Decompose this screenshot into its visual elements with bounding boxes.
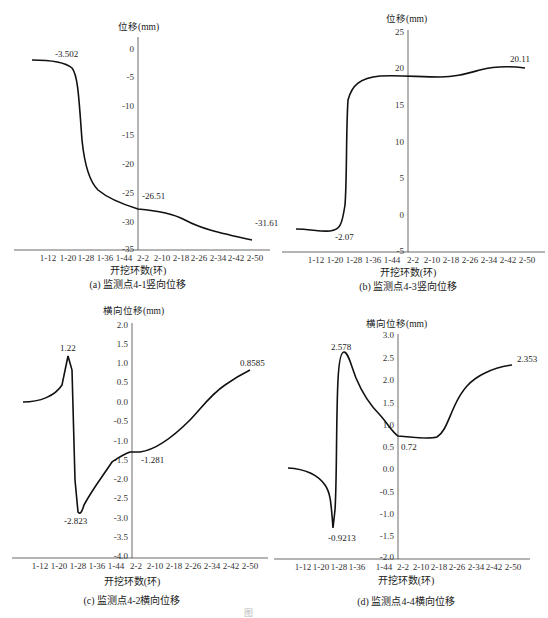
svg-text:2-42: 2-42 (486, 562, 503, 572)
svg-text:1-20: 1-20 (327, 255, 344, 265)
svg-text:-10: -10 (122, 101, 134, 111)
chart-c-annotation: 0.8585 (240, 358, 265, 368)
svg-text:2-10: 2-10 (413, 562, 430, 572)
svg-text:2-34: 2-34 (204, 561, 221, 571)
svg-text:2-2: 2-2 (130, 561, 142, 571)
chart-d-series-line (288, 352, 512, 528)
svg-text:1-28: 1-28 (331, 562, 348, 572)
chart-d-annotation: -0.9213 (328, 533, 356, 543)
chart-c-annotation: -2.823 (64, 516, 88, 526)
svg-text:-1.0: -1.0 (380, 509, 395, 519)
chart-b-annotation: 20.11 (510, 54, 530, 64)
svg-text:2-42: 2-42 (223, 561, 240, 571)
svg-text:-3.0: -3.0 (114, 513, 129, 523)
svg-text:5: 5 (400, 173, 405, 183)
svg-text:2.0: 2.0 (117, 320, 129, 330)
svg-text:2.5: 2.5 (383, 353, 395, 363)
svg-text:-1.0: -1.0 (114, 436, 129, 446)
chart-a-xticks: 1-12 1-20 1-28 1-36 1-44 2-2 2-10 2-18 2… (40, 253, 264, 263)
svg-text:1-12: 1-12 (32, 561, 49, 571)
chart-b-ylabel: 位移(mm) (386, 13, 427, 25)
chart-b-series-line (296, 67, 525, 232)
svg-text:-15: -15 (122, 130, 134, 140)
svg-text:-3.5: -3.5 (114, 532, 129, 542)
chart-a-annotation: -31.61 (255, 218, 278, 228)
svg-text:25: 25 (395, 27, 405, 37)
svg-text:2-42: 2-42 (500, 255, 517, 265)
chart-d-annotation: 2.578 (331, 342, 352, 352)
svg-text:-0.5: -0.5 (114, 416, 129, 426)
svg-text:1-12: 1-12 (308, 255, 325, 265)
chart-c-annotation: 1.22 (60, 343, 76, 353)
svg-text:-25: -25 (122, 188, 134, 198)
svg-text:2-2: 2-2 (137, 253, 149, 263)
svg-text:0.5: 0.5 (117, 377, 129, 387)
chart-b-caption: (b) 监测点4-3竖向位移 (359, 280, 457, 293)
svg-text:1-36: 1-36 (349, 562, 366, 572)
chart-a-annotation: -26.51 (142, 191, 165, 201)
svg-text:20: 20 (395, 63, 405, 73)
svg-text:1-36: 1-36 (97, 253, 114, 263)
chart-c-xticks: 1-12 1-20 1-28 1-36 1-44 2-2 2-10 2-18 2… (32, 561, 259, 571)
svg-text:1-44: 1-44 (116, 253, 133, 263)
svg-text:0.0: 0.0 (383, 464, 395, 474)
svg-text:2-26: 2-26 (191, 253, 208, 263)
svg-text:0.0: 0.0 (117, 397, 129, 407)
svg-text:3.0: 3.0 (383, 330, 395, 340)
svg-text:1-20: 1-20 (51, 561, 68, 571)
svg-text:2-18: 2-18 (173, 253, 190, 263)
chart-c-yticks: 2.0 1.5 1.0 0.5 0.0 -0.5 -1.0 -1.5 -2.0 … (114, 320, 129, 561)
chart-b-xlabel: 开挖环数(环) (380, 266, 437, 279)
svg-text:1.5: 1.5 (117, 339, 129, 349)
svg-text:-2.5: -2.5 (114, 493, 129, 503)
svg-text:2-26: 2-26 (462, 255, 479, 265)
svg-text:2-26: 2-26 (185, 561, 202, 571)
svg-text:-30: -30 (122, 217, 134, 227)
svg-text:-0.5: -0.5 (380, 487, 395, 497)
svg-text:15: 15 (395, 100, 405, 110)
chart-b: 位移(mm) 25 20 15 10 5 0 -5 1-12 1-20 1-28… (282, 13, 545, 293)
svg-text:1-20: 1-20 (60, 253, 77, 263)
svg-text:2-50: 2-50 (247, 253, 264, 263)
chart-a-series-line (32, 60, 252, 240)
svg-text:1-36: 1-36 (89, 561, 106, 571)
chart-d-xticks: 1-12 1-20 1-28 1-36 1-44 2-2 2-10 2-18 2… (295, 562, 522, 572)
svg-text:2-2: 2-2 (397, 562, 409, 572)
chart-a-ylabel: 位移(mm) (118, 21, 159, 33)
svg-text:0: 0 (400, 210, 405, 220)
svg-text:1-44: 1-44 (384, 255, 401, 265)
svg-text:1-44: 1-44 (108, 561, 125, 571)
svg-text:2.0: 2.0 (383, 375, 395, 385)
chart-a-xlabel: 开挖环数(环) (110, 264, 167, 277)
svg-text:-2.0: -2.0 (380, 552, 395, 562)
svg-text:2-26: 2-26 (449, 562, 466, 572)
chart-d-ylabel: 横向位移(mm) (366, 318, 427, 330)
svg-text:-20: -20 (122, 159, 134, 169)
chart-b-xticks: 1-12 1-20 1-28 1-36 1-44 2-2 2-10 2-18 2… (308, 255, 536, 265)
chart-b-yticks: 25 20 15 10 5 0 -5 (395, 27, 405, 256)
svg-text:2-2: 2-2 (407, 255, 419, 265)
svg-text:2-50: 2-50 (242, 561, 259, 571)
svg-text:0: 0 (130, 44, 135, 54)
svg-text:1-44: 1-44 (376, 562, 393, 572)
svg-text:1.0: 1.0 (117, 358, 129, 368)
svg-text:2-10: 2-10 (147, 561, 164, 571)
svg-text:10: 10 (395, 137, 405, 147)
svg-text:1-20: 1-20 (313, 562, 330, 572)
chart-c-annotation: -1.281 (141, 455, 164, 465)
svg-text:2-34: 2-34 (210, 253, 227, 263)
svg-text:2-50: 2-50 (505, 562, 522, 572)
svg-text:-1.5: -1.5 (380, 531, 395, 541)
chart-a-annotation: -3.502 (55, 49, 78, 59)
chart-a-yticks: 0 -5 -10 -15 -20 -25 -30 -35 (122, 44, 135, 254)
chart-a-caption: (a) 监测点4-1竖向位移 (90, 278, 187, 291)
svg-text:1-36: 1-36 (365, 255, 382, 265)
svg-text:-4.0: -4.0 (114, 551, 129, 561)
svg-text:2-10: 2-10 (424, 255, 441, 265)
svg-text:1-28: 1-28 (346, 255, 363, 265)
svg-text:-5: -5 (127, 72, 135, 82)
chart-c: 横向位移(mm) 2.0 1.5 1.0 0.5 0.0 -0.5 -1.0 -… (12, 305, 268, 607)
svg-text:2-34: 2-34 (468, 562, 485, 572)
chart-d-annotation: 0.72 (401, 442, 417, 452)
svg-text:2-10: 2-10 (154, 253, 171, 263)
